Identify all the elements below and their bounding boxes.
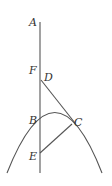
geometry-diagram: A F D B C E (0, 0, 112, 186)
segment-ec (40, 124, 72, 153)
parabola-curve (7, 113, 102, 174)
label-e: E (28, 150, 37, 163)
line-dc (41, 80, 75, 123)
label-d: D (43, 71, 53, 84)
label-c: C (74, 116, 83, 129)
label-a: A (28, 16, 37, 29)
label-f: F (28, 64, 37, 77)
label-b: B (28, 114, 37, 127)
